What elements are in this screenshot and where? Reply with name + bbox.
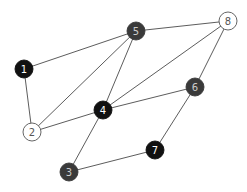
node-5: 5 [127,22,145,40]
node-8: 8 [219,12,237,30]
node-label: 6 [192,82,198,93]
edge-3-7 [69,150,155,172]
node-label: 4 [100,105,106,116]
node-6: 6 [186,78,204,96]
edge-6-8 [195,21,228,87]
edges [24,21,228,172]
nodes: 12345678 [15,12,237,181]
node-label: 2 [29,127,35,138]
node-3: 3 [60,163,78,181]
graph-diagram: 12345678 [0,0,247,192]
node-2: 2 [23,123,41,141]
node-label: 5 [133,26,139,37]
edge-7-6 [155,87,195,150]
edge-1-2 [24,69,32,132]
node-4: 4 [94,101,112,119]
node-label: 1 [21,64,27,75]
node-label: 7 [152,145,158,156]
node-7: 7 [146,141,164,159]
node-1: 1 [15,60,33,78]
edge-2-5 [32,31,136,132]
edge-5-8 [136,21,228,31]
edge-4-6 [103,87,195,110]
node-label: 3 [66,167,72,178]
edge-1-5 [24,31,136,69]
node-label: 8 [225,16,231,27]
